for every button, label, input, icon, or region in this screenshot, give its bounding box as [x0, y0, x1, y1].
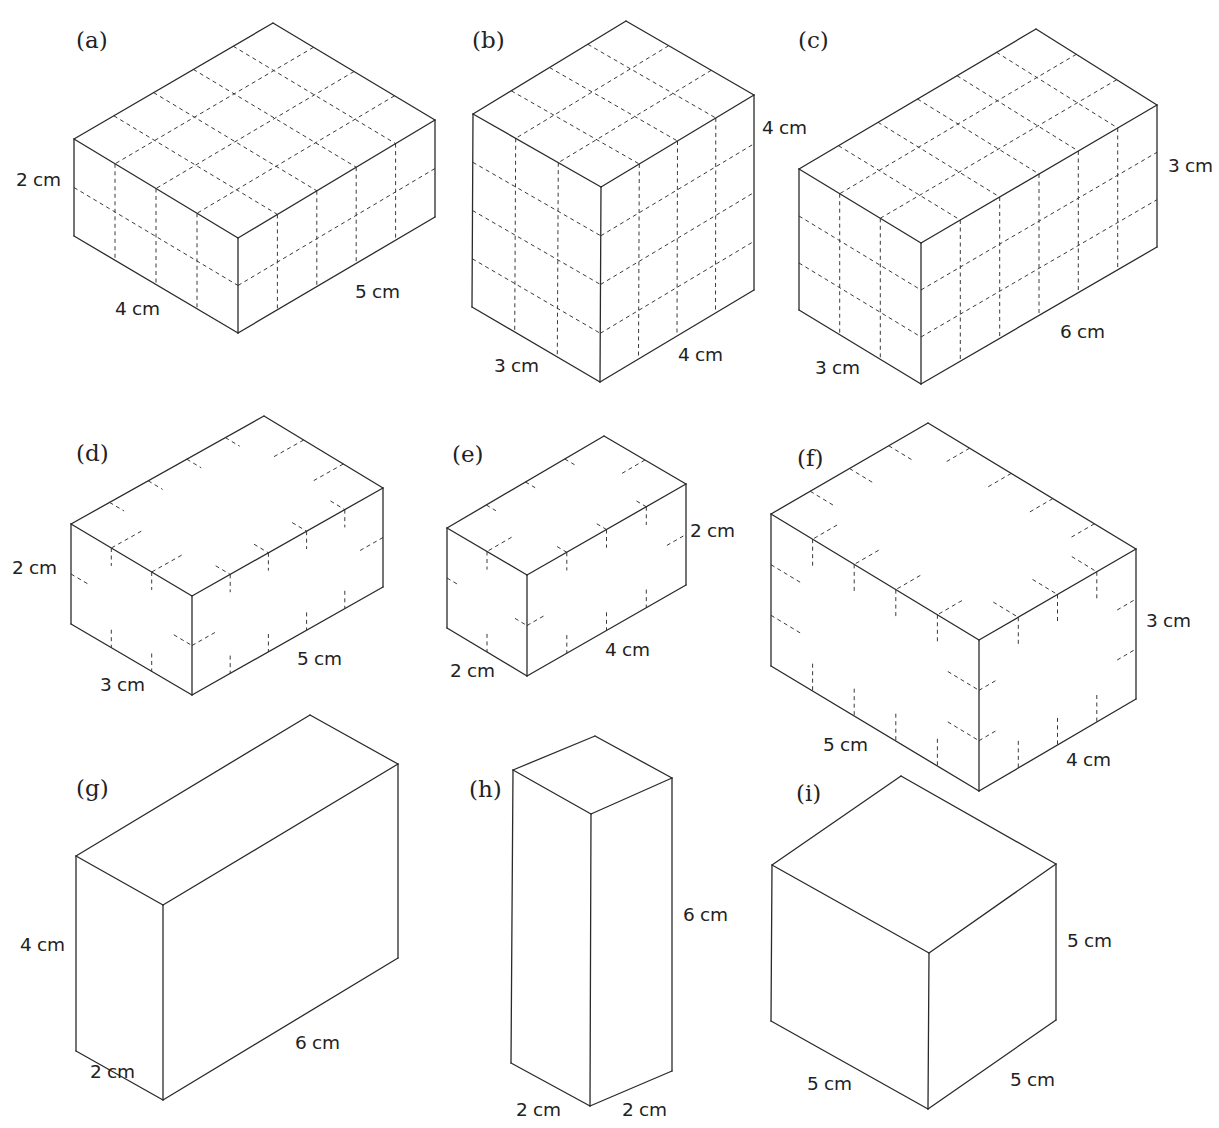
dimension-label-left: 2 cm: [516, 1099, 561, 1120]
dimension-label-left: 3 cm: [100, 674, 145, 695]
dimension-label-left: 4 cm: [115, 298, 160, 319]
dimension-label-left: 5 cm: [807, 1073, 852, 1094]
figure-label-d: (d): [76, 440, 109, 466]
dimension-label-right: 4 cm: [1066, 749, 1111, 770]
dimension-label-height: 3 cm: [1168, 155, 1213, 176]
dimension-label-height: 3 cm: [1146, 610, 1191, 631]
cuboid-figure-b: (b)4 cm3 cm4 cm: [472, 21, 807, 382]
figure-label-e: (e): [452, 441, 484, 467]
cuboid-figure-a: (a)2 cm4 cm5 cm: [16, 23, 435, 333]
cuboid-figure-g: (g)4 cm2 cm6 cm: [20, 715, 398, 1100]
dimension-label-height: 4 cm: [20, 934, 65, 955]
cuboid-figure-h: (h)6 cm2 cm2 cm: [469, 736, 728, 1120]
dimension-label-height: 5 cm: [1067, 930, 1112, 951]
dimension-label-right: 5 cm: [355, 281, 400, 302]
dimension-label-right: 2 cm: [622, 1099, 667, 1120]
figure-label-a: (a): [76, 27, 108, 53]
dimension-label-left: 2 cm: [90, 1061, 135, 1082]
dimension-label-height: 4 cm: [762, 117, 807, 138]
cuboid-diagram: (a)2 cm4 cm5 cm(b)4 cm3 cm4 cm(c)3 cm3 c…: [0, 0, 1219, 1128]
figure-label-f: (f): [797, 445, 823, 471]
dimension-label-left: 3 cm: [815, 357, 860, 378]
dimension-label-right: 5 cm: [1010, 1069, 1055, 1090]
dimension-label-right: 5 cm: [297, 648, 342, 669]
dimension-label-left: 3 cm: [494, 355, 539, 376]
cuboid-figure-d: (d)2 cm3 cm5 cm: [12, 416, 383, 695]
dimension-label-right: 4 cm: [678, 344, 723, 365]
dimension-label-height: 2 cm: [16, 169, 61, 190]
dimension-label-right: 4 cm: [605, 639, 650, 660]
figure-label-c: (c): [798, 27, 829, 53]
dimension-label-left: 2 cm: [450, 660, 495, 681]
cuboid-figure-f: (f)3 cm5 cm4 cm: [771, 423, 1191, 791]
dimension-label-height: 6 cm: [683, 904, 728, 925]
figure-label-b: (b): [472, 27, 505, 53]
cuboid-figure-e: (e)2 cm2 cm4 cm: [447, 436, 735, 681]
cuboid-figure-c: (c)3 cm3 cm6 cm: [798, 27, 1213, 384]
dimension-label-right: 6 cm: [295, 1032, 340, 1053]
dimension-label-height: 2 cm: [12, 557, 57, 578]
cuboid-figure-i: (i)5 cm5 cm5 cm: [771, 776, 1112, 1109]
figure-label-i: (i): [796, 780, 821, 806]
dimension-label-height: 2 cm: [690, 520, 735, 541]
figure-label-g: (g): [76, 775, 109, 801]
figure-label-h: (h): [469, 776, 502, 802]
dimension-label-right: 6 cm: [1060, 321, 1105, 342]
dimension-label-left: 5 cm: [823, 734, 868, 755]
